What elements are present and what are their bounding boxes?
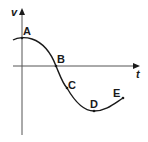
point-d-label: D [90, 98, 98, 110]
velocity-curve [13, 38, 123, 111]
point-b-label: B [57, 53, 65, 65]
point-e-label: E [113, 87, 120, 99]
velocity-time-diagram: v t A B C D E [0, 0, 148, 142]
point-a-label: A [23, 25, 31, 37]
v-axis-label: v [11, 6, 18, 18]
point-a-marker [21, 37, 24, 40]
point-c-label: C [68, 79, 76, 91]
point-b-marker [55, 65, 58, 68]
point-e-marker [122, 97, 125, 100]
v-axis-arrow-icon [19, 8, 25, 15]
t-axis-label: t [136, 68, 141, 80]
point-d-marker [93, 110, 96, 113]
